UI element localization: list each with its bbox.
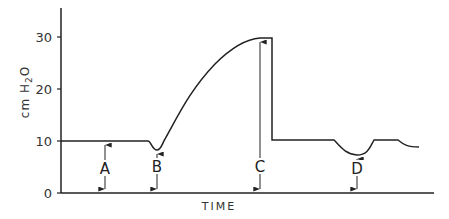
annotation-d: D (351, 160, 363, 178)
ytick-label-10: 10 (35, 134, 52, 149)
ytick-label-0: 0 (44, 186, 52, 201)
pressure-trace (61, 38, 419, 155)
y-axis-title: cm H2O (18, 66, 34, 118)
annotation-a: A (100, 160, 111, 178)
annotation-b: B (152, 158, 162, 176)
x-axis-title: TIME (201, 200, 236, 213)
ytick-label-30: 30 (35, 30, 52, 45)
ytick-label-20: 20 (35, 82, 52, 97)
annotation-c: C (255, 158, 265, 176)
pressure-chart: 30 20 10 0 cm H2O TIME A B C D (0, 0, 449, 219)
